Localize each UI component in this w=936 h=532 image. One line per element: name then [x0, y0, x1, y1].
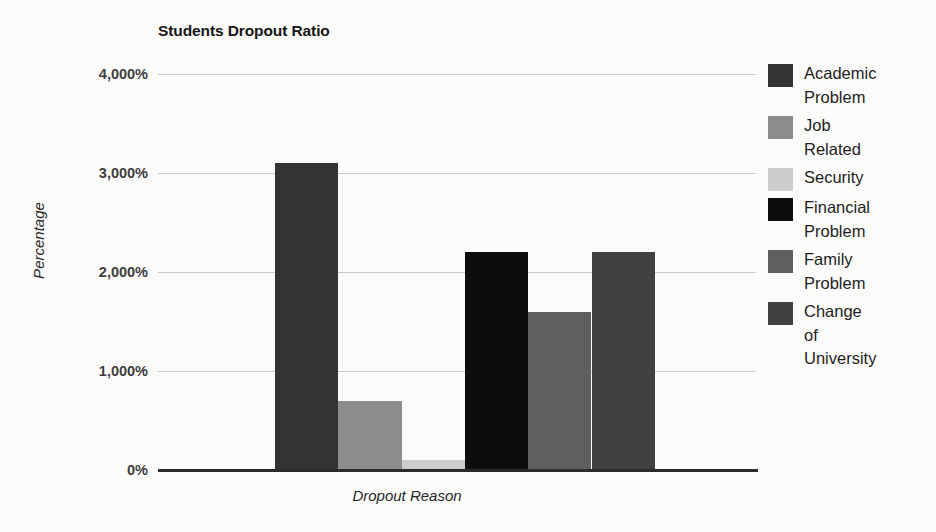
y-axis-title: Percentage	[30, 181, 47, 301]
y-axis-tick-label: 3,000%	[56, 165, 148, 181]
legend-item[interactable]: Job Related	[768, 114, 936, 161]
legend: Academic ProblemJob RelatedSecurityFinan…	[768, 62, 936, 376]
legend-swatch-icon	[768, 116, 793, 139]
bar	[528, 312, 591, 470]
bar	[338, 401, 401, 470]
legend-item[interactable]: Change of University	[768, 300, 936, 371]
legend-item[interactable]: Academic Problem	[768, 62, 936, 109]
plot-area	[158, 74, 756, 470]
bar	[275, 163, 338, 470]
legend-swatch-icon	[768, 250, 793, 273]
bar-chart: Students Dropout Ratio Percentage Dropou…	[0, 0, 936, 532]
legend-item-label: Change of University	[804, 300, 876, 371]
chart-title: Students Dropout Ratio	[158, 22, 330, 40]
legend-item-label: Job Related	[804, 114, 861, 161]
legend-item-label: Academic Problem	[804, 62, 876, 109]
y-axis-tick-label: 0%	[56, 462, 148, 478]
gridline	[158, 272, 756, 273]
legend-item-label: Financial Problem	[804, 196, 870, 243]
gridline	[158, 173, 756, 174]
y-axis-tick-labels: 0%1,000%2,000%3,000%4,000%	[48, 0, 148, 532]
legend-swatch-icon	[768, 64, 793, 87]
legend-swatch-icon	[768, 168, 793, 191]
y-axis-tick-label: 1,000%	[56, 363, 148, 379]
x-axis-line	[158, 469, 758, 472]
y-axis-tick-label: 2,000%	[56, 264, 148, 280]
legend-item[interactable]: Security	[768, 166, 936, 191]
gridline	[158, 74, 756, 75]
legend-item[interactable]: Family Problem	[768, 248, 936, 295]
bar	[592, 252, 655, 470]
legend-item[interactable]: Financial Problem	[768, 196, 936, 243]
bar	[465, 252, 528, 470]
y-axis-tick-label: 4,000%	[56, 66, 148, 82]
legend-item-label: Security	[804, 166, 864, 190]
x-axis-title: Dropout Reason	[158, 487, 656, 504]
legend-swatch-icon	[768, 302, 793, 325]
legend-item-label: Family Problem	[804, 248, 865, 295]
gridline	[158, 371, 756, 372]
legend-swatch-icon	[768, 198, 793, 221]
